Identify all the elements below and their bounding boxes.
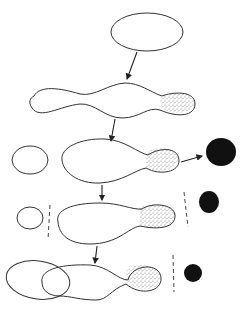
dark-body: [199, 191, 219, 213]
arrow-expel: [181, 156, 202, 162]
division-line: [48, 205, 50, 240]
dark-body: [206, 138, 236, 166]
bud-region: [160, 93, 195, 113]
arrow-1: [127, 52, 137, 79]
daughter-cell: [17, 207, 43, 229]
stage-5: [4, 255, 202, 303]
stage-2: [30, 83, 195, 141]
arrow-2: [111, 119, 115, 141]
stage-4: [17, 191, 219, 263]
diagram-canvas: [0, 0, 245, 315]
division-line: [173, 255, 174, 292]
dark-body: [184, 264, 202, 282]
daughter-cell: [12, 146, 48, 174]
division-line: [184, 192, 188, 227]
arrow-4: [95, 246, 97, 263]
stage-3: [12, 138, 236, 200]
initial-cell: [111, 13, 183, 51]
stage-1: [111, 13, 183, 79]
